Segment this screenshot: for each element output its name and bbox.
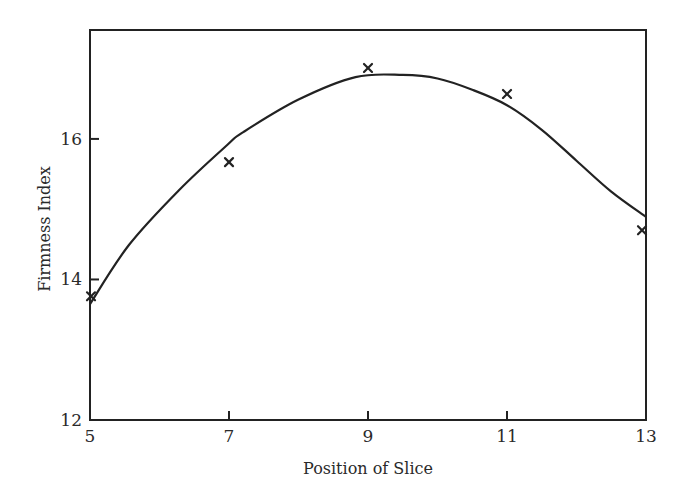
x-axis-ticks: 5791113 xyxy=(85,411,657,446)
x-tick-label: 9 xyxy=(363,426,374,446)
data-point-markers xyxy=(87,64,646,300)
chart: 121416 5791113 Position of Slice Firmnes… xyxy=(0,0,688,493)
x-tick-label: 7 xyxy=(224,426,235,446)
x-tick-label: 11 xyxy=(496,426,518,446)
y-axis-ticks: 121416 xyxy=(60,129,99,430)
x-marker-icon xyxy=(364,64,372,72)
fitted-curve xyxy=(90,74,646,304)
x-marker-icon xyxy=(225,158,233,166)
y-tick-label: 16 xyxy=(60,129,82,149)
x-axis-title: Position of Slice xyxy=(303,459,433,478)
x-tick-label: 13 xyxy=(635,426,657,446)
x-tick-label: 5 xyxy=(85,426,96,446)
x-marker-icon xyxy=(503,90,511,98)
y-tick-label: 12 xyxy=(60,410,82,430)
x-marker-icon xyxy=(638,226,646,234)
plot-frame xyxy=(90,30,646,420)
y-tick-label: 14 xyxy=(60,269,82,289)
y-axis-title: Firmness Index xyxy=(35,166,54,292)
